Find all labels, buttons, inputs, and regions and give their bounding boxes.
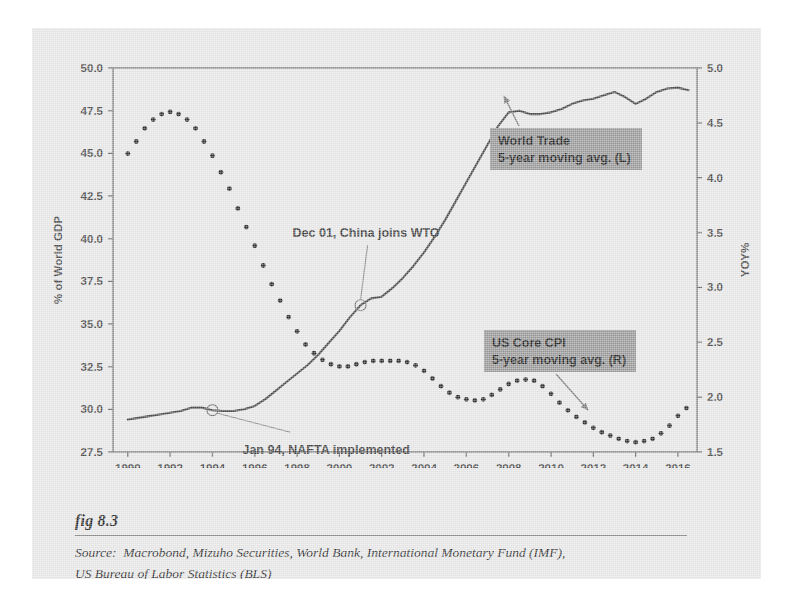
legend-us-core-cpi: US Core CPI5-year moving avg. (R) xyxy=(484,330,636,372)
y2-axis-tick-label: 5.0 xyxy=(707,62,723,74)
x-axis-tick-label: 2002 xyxy=(369,462,395,468)
nafta-annotation-text: Jan 94, NAFTA implemented xyxy=(242,443,409,457)
china-wto-annotation-text: Dec 01, China joins WTO xyxy=(293,226,440,240)
y-axis-title: % of World GDP xyxy=(52,216,64,304)
svg-text:5-year moving avg. (R): 5-year moving avg. (R) xyxy=(492,353,626,367)
y2-axis-title: YOY% xyxy=(739,243,751,278)
chart-plot: 27.530.032.535.037.540.042.545.047.550.0… xyxy=(32,28,761,468)
x-axis-tick-label: 2006 xyxy=(454,462,480,468)
y-axis-tick-label: 47.5 xyxy=(81,105,104,117)
y2-axis-tick-label: 4.0 xyxy=(707,172,723,184)
x-axis-tick-label: 1992 xyxy=(157,462,183,468)
plot-frame xyxy=(113,68,697,452)
y-axis-tick-label: 42.5 xyxy=(81,190,104,202)
y-axis-tick-label: 40.0 xyxy=(81,233,103,245)
svg-text:5-year moving avg. (L): 5-year moving avg. (L) xyxy=(498,151,631,165)
y2-axis-tick-label: 2.0 xyxy=(707,391,723,403)
legend-world-trade: World Trade5-year moving avg. (L) xyxy=(490,128,642,170)
caption-divider xyxy=(75,535,687,536)
y2-axis-tick-label: 1.5 xyxy=(707,446,724,458)
y-axis-tick-label: 45.0 xyxy=(81,147,103,159)
figure-page: 27.530.032.535.037.540.042.545.047.550.0… xyxy=(32,28,761,579)
x-axis-tick-label: 2000 xyxy=(327,462,353,468)
china-wto-leader-line xyxy=(361,245,368,299)
x-axis-tick-label: 2008 xyxy=(496,462,522,468)
x-axis-tick-label: 2004 xyxy=(411,462,437,468)
x-axis-tick-label: 2012 xyxy=(581,462,607,468)
y-axis-tick-label: 32.5 xyxy=(81,361,104,373)
y2-axis-tick-label: 3.5 xyxy=(707,227,724,239)
x-axis-tick-label: 2014 xyxy=(623,462,649,468)
y-axis-tick-label: 37.5 xyxy=(81,275,104,287)
y2-axis-tick-label: 2.5 xyxy=(707,336,724,348)
svg-text:World Trade: World Trade xyxy=(498,134,570,148)
chart-area: 27.530.032.535.037.540.042.545.047.550.0… xyxy=(32,28,761,468)
x-axis-tick-label: 1994 xyxy=(200,462,226,468)
y2-axis-tick-label: 4.5 xyxy=(707,117,724,129)
y-axis-tick-label: 50.0 xyxy=(81,62,103,74)
x-axis-tick-label: 1998 xyxy=(284,462,310,468)
y-axis-tick-label: 35.0 xyxy=(81,318,103,330)
x-axis-tick-label: 2016 xyxy=(665,462,691,468)
x-axis-tick-label: 1990 xyxy=(115,462,141,468)
nafta-leader-line xyxy=(217,413,290,432)
y2-axis-tick-label: 3.0 xyxy=(707,281,723,293)
y-axis-tick-label: 27.5 xyxy=(81,446,104,458)
figure-caption-block: fig 8.3 Source: Macrobond, Mizuho Securi… xyxy=(75,512,715,579)
figure-label: fig 8.3 xyxy=(75,512,715,530)
source-line-2: US Bureau of Labor Statistics (BLS) xyxy=(75,564,715,579)
x-axis-tick-label: 2010 xyxy=(538,462,564,468)
y-axis-tick-label: 30.0 xyxy=(81,403,103,415)
source-line-1: Source: Macrobond, Mizuho Securities, Wo… xyxy=(75,543,715,564)
svg-text:US Core CPI: US Core CPI xyxy=(492,336,566,350)
x-axis-tick-label: 1996 xyxy=(242,462,268,468)
